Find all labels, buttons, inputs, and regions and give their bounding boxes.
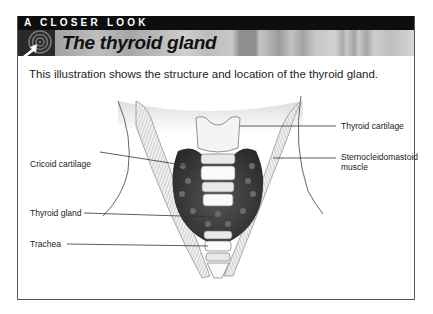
- header-bar: A CLOSER LOOK: [18, 16, 414, 30]
- intro-text: This illustration shows the structure an…: [29, 68, 378, 80]
- label-thyroid-gland: Thyroid gland: [30, 208, 82, 218]
- label-sternocleidomastoid: Sternocleidomastoid muscle: [341, 152, 418, 172]
- page-title: The thyroid gland: [62, 32, 216, 54]
- thyroid-illustration: Thyroid cartilage Sternocleidomastoid mu…: [18, 96, 416, 300]
- label-sternocleidomastoid-line2: muscle: [341, 162, 368, 172]
- target-arrow-icon: [18, 30, 55, 56]
- closer-look-box: A CLOSER LOOK The thyroid gland This ill…: [17, 16, 415, 300]
- kicker-text: A CLOSER LOOK: [24, 17, 149, 28]
- label-trachea: Trachea: [30, 239, 61, 249]
- label-thyroid-cartilage: Thyroid cartilage: [341, 121, 404, 131]
- label-cricoid-cartilage: Cricoid cartilage: [30, 159, 91, 169]
- label-sternocleidomastoid-line1: Sternocleidomastoid: [341, 152, 418, 162]
